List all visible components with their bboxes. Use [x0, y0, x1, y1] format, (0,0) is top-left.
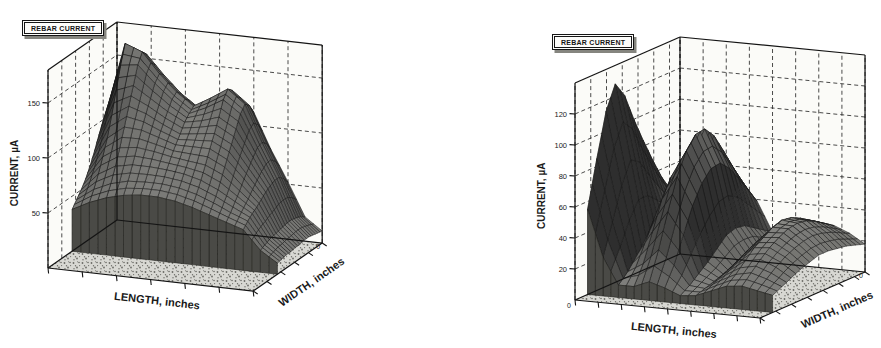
charts-canvas: 501001500LENGTH, inchesWIDTH, inchesCURR…	[0, 0, 881, 348]
legend-box-right: REBAR CURRENT	[552, 34, 634, 50]
figure-scan: 501001500LENGTH, inchesWIDTH, inchesCURR…	[0, 0, 881, 348]
surface-chart-left: 501001500LENGTH, inchesWIDTH, inchesCURR…	[9, 22, 346, 311]
legend-label-right: REBAR CURRENT	[561, 39, 625, 46]
z-tick-label: 50	[32, 209, 40, 218]
z-tick-label: 80	[559, 172, 567, 181]
legend-label-left: REBAR CURRENT	[31, 25, 95, 32]
legend-box-left: REBAR CURRENT	[22, 20, 104, 36]
z-tick-label: 20	[559, 265, 567, 274]
current-axis-title: CURRENT, µA	[536, 163, 547, 229]
current-axis-title: CURRENT, µA	[9, 140, 20, 206]
width-far-tick-label: 0	[859, 272, 863, 279]
width-far-tick-label: 0	[316, 243, 320, 250]
z-tick-label: 40	[559, 234, 567, 243]
z-tick-label: 100	[554, 141, 567, 150]
z-tick-label: 60	[559, 203, 567, 212]
length-axis-title: LENGTH, inches	[630, 320, 717, 340]
z-tick-label: 120	[554, 110, 567, 119]
length-axis-title: LENGTH, inches	[114, 290, 201, 312]
origin-tick-label: 0	[567, 302, 571, 309]
z-tick-label: 100	[27, 154, 40, 163]
z-tick-label: 150	[27, 99, 40, 108]
surface-chart-right: 2040608010012000LENGTH, inchesWIDTH, inc…	[536, 37, 875, 340]
